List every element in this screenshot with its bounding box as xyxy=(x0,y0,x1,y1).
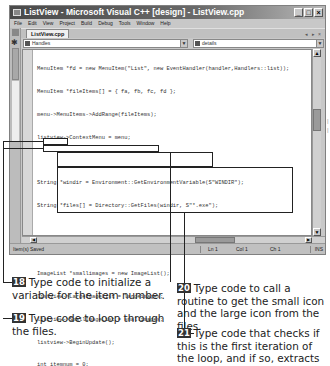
ide-window: ListView - Microsoft Visual C++ [design]… xyxy=(9,5,326,255)
menu-tools[interactable]: Tools xyxy=(119,19,131,28)
code-line: menu->MenuItems->AddRange(fileItems); xyxy=(37,112,289,120)
menu-file[interactable]: File xyxy=(14,19,22,28)
caption-step-20: 20Type code to call a routine to get the… xyxy=(177,282,330,332)
status-column: Col 1 xyxy=(236,244,248,255)
close-button[interactable]: × xyxy=(314,8,323,17)
leader-line-20 xyxy=(170,152,171,282)
menu-view[interactable]: View xyxy=(43,19,54,28)
chevron-down-icon[interactable]: ▼ xyxy=(180,40,187,47)
leader-line-19 xyxy=(3,148,43,149)
method-icon xyxy=(195,41,200,46)
step-badge-19: 19 xyxy=(12,313,26,323)
leader-line-18 xyxy=(3,141,43,142)
title-bar[interactable]: ListView - Microsoft Visual C++ [design]… xyxy=(10,6,325,19)
margin-mark: | xyxy=(327,118,329,124)
menu-debug[interactable]: Debug xyxy=(98,19,113,28)
menu-bar: File Edit View Project Build Debug Tools… xyxy=(10,19,325,28)
minimize-button[interactable]: _ xyxy=(294,8,303,17)
caption-step-21: 21Type code that checks if this is the f… xyxy=(177,327,330,366)
step-badge-18: 18 xyxy=(12,277,26,287)
horizontal-scrollbar[interactable]: ◀ ▶ xyxy=(22,236,325,243)
class-icon xyxy=(25,41,30,46)
editor-gutter xyxy=(23,50,33,235)
scroll-up-icon[interactable]: ▲ xyxy=(313,49,321,57)
caption-text-21: Type code that checks if this is the fir… xyxy=(177,327,320,366)
status-message: Item(s) Saved xyxy=(13,244,44,255)
toolbox-icon[interactable]: ✱ xyxy=(11,39,18,47)
code-line: MenuItem *fileItems[] = { fa, fb, fc, fd… xyxy=(37,89,289,97)
chevron-down-icon[interactable]: ▼ xyxy=(316,40,323,47)
toolbox-strip: ✱ xyxy=(10,28,21,243)
leader-line-18-vertical xyxy=(3,141,4,282)
menu-help[interactable]: Help xyxy=(160,19,170,28)
window-title: ListView - Microsoft Visual C++ [design]… xyxy=(24,7,244,17)
caption-step-18: 18Type code to initialize a variable for… xyxy=(12,276,172,301)
menu-build[interactable]: Build xyxy=(81,19,92,28)
document-tab-bar: ListView.cpp ◂ ▸ × xyxy=(10,28,325,38)
menu-window[interactable]: Window xyxy=(137,19,155,28)
maximize-button[interactable]: □ xyxy=(304,8,313,17)
status-char: Ch 1 xyxy=(270,244,281,255)
code-line: MenuItem *fd = new MenuItem("List", new … xyxy=(37,66,289,74)
callout-box-20 xyxy=(57,152,213,167)
step-badge-20: 20 xyxy=(177,283,191,293)
vertical-scrollbar[interactable]: ▲ ▼ xyxy=(312,49,321,236)
server-explorer-icon[interactable] xyxy=(12,29,19,36)
code-line: listview->ContextMenu = menu; xyxy=(37,135,289,143)
caption-text-18: Type code to initialize a variable for t… xyxy=(12,276,165,301)
status-line: Ln 1 xyxy=(208,244,218,255)
caption-text-19: Type code to loop through the files. xyxy=(12,312,164,337)
margin-mark: | xyxy=(327,127,329,133)
step-badge-21: 21 xyxy=(177,328,191,338)
callout-box-21 xyxy=(57,167,293,213)
toolbox-tab[interactable] xyxy=(12,48,19,80)
vertical-scroll-thumb[interactable] xyxy=(313,109,321,131)
status-divider xyxy=(310,246,311,253)
callout-box-18 xyxy=(43,138,68,145)
member-dropdown[interactable]: details ▼ xyxy=(193,39,324,48)
menu-project[interactable]: Project xyxy=(59,19,75,28)
status-mode: INS xyxy=(315,244,323,255)
navigation-bar: Handles ▼ details ▼ xyxy=(22,38,325,49)
class-dropdown[interactable]: Handles ▼ xyxy=(23,39,188,48)
code-line xyxy=(37,226,289,234)
status-bar: Item(s) Saved Ln 1 Col 1 Ch 1 INS xyxy=(10,243,325,254)
caption-step-19: 19Type code to loop through the files. xyxy=(12,312,167,337)
scroll-down-icon[interactable]: ▼ xyxy=(313,228,321,236)
toolbox-panel xyxy=(12,81,19,141)
app-icon xyxy=(13,9,21,16)
callout-box-19 xyxy=(43,145,159,152)
caption-text-20: Type code to call a routine to get the s… xyxy=(177,282,324,332)
status-divider xyxy=(200,246,201,253)
menu-edit[interactable]: Edit xyxy=(28,19,37,28)
member-dropdown-value: details xyxy=(202,40,216,46)
class-dropdown-value: Handles xyxy=(32,40,50,46)
